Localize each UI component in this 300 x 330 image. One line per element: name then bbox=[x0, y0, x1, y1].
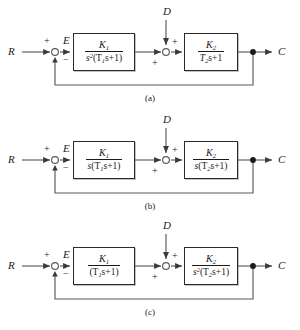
block2-numerator: K2 bbox=[202, 254, 220, 265]
block-diagram-b: R E D C + − + + K1 s(T1s+1) K2 s(T2s+1) … bbox=[0, 108, 300, 218]
sign-sum2-plus-top: + bbox=[172, 37, 178, 47]
label-input-r: R bbox=[8, 260, 15, 271]
transfer-function-block-1: K1 s(T1s+1) bbox=[73, 141, 135, 179]
block-diagram-a: R E D C + − + + K1 s2(T1s+1) K2 T2s+1 (a… bbox=[0, 0, 300, 110]
fraction-bar bbox=[86, 159, 121, 160]
sign-sum1-plus: + bbox=[44, 36, 50, 46]
block1-denominator: s2(T1s+1) bbox=[82, 53, 126, 64]
label-disturbance-d: D bbox=[163, 220, 171, 231]
feedback-arrowhead bbox=[52, 165, 58, 170]
summing-junction-1 bbox=[52, 263, 59, 270]
summing-junction-2 bbox=[163, 263, 170, 270]
caption-a: (a) bbox=[0, 93, 300, 103]
label-disturbance-d: D bbox=[163, 114, 171, 125]
sign-sum1-minus: − bbox=[63, 163, 69, 173]
block2-denominator: s2(T2s+1) bbox=[189, 267, 233, 278]
sign-sum1-plus: + bbox=[44, 144, 50, 154]
transfer-function-block-2: K2 s(T2s+1) bbox=[184, 141, 238, 179]
block2-numerator: K2 bbox=[202, 40, 220, 51]
label-output-c: C bbox=[278, 46, 285, 57]
takeoff-point bbox=[250, 49, 256, 55]
summing-junction-1 bbox=[52, 49, 59, 56]
label-output-c: C bbox=[278, 260, 285, 271]
sign-sum2-plus-bottom: + bbox=[152, 58, 158, 68]
sign-sum1-minus: − bbox=[63, 269, 69, 279]
label-error-e: E bbox=[63, 35, 70, 46]
fraction-bar bbox=[198, 51, 224, 52]
sign-sum2-plus-bottom: + bbox=[152, 272, 158, 282]
caption-c: (c) bbox=[0, 307, 300, 317]
transfer-function-block-2: K2 s2(T2s+1) bbox=[184, 247, 238, 285]
summing-junction-1 bbox=[52, 157, 59, 164]
fraction-bar bbox=[88, 265, 120, 266]
feedback-arrowhead bbox=[52, 57, 58, 62]
sign-sum1-plus: + bbox=[44, 250, 50, 260]
figure-canvas: R E D C + − + + K1 s2(T1s+1) K2 T2s+1 (a… bbox=[0, 0, 300, 330]
sign-sum2-plus-top: + bbox=[172, 145, 178, 155]
block1-numerator: K1 bbox=[95, 254, 113, 265]
block-diagram-c: R E D C + − + + K1 (T1s+1) K2 s2(T2s+1) … bbox=[0, 214, 300, 324]
label-input-r: R bbox=[8, 46, 15, 57]
transfer-function-block-2: K2 T2s+1 bbox=[184, 33, 238, 71]
block1-denominator: s(T1s+1) bbox=[84, 161, 125, 172]
block2-denominator: s(T2s+1) bbox=[191, 161, 232, 172]
label-error-e: E bbox=[63, 143, 70, 154]
block1-numerator: K1 bbox=[95, 40, 113, 51]
sign-sum2-plus-top: + bbox=[172, 251, 178, 261]
label-error-e: E bbox=[63, 249, 70, 260]
block1-denominator: (T1s+1) bbox=[85, 267, 122, 278]
summing-junction-2 bbox=[163, 157, 170, 164]
summing-junction-2 bbox=[163, 49, 170, 56]
takeoff-point bbox=[250, 263, 256, 269]
label-output-c: C bbox=[278, 154, 285, 165]
label-disturbance-d: D bbox=[163, 6, 171, 17]
block2-numerator: K2 bbox=[202, 148, 220, 159]
feedback-arrowhead bbox=[52, 271, 58, 276]
takeoff-point bbox=[250, 157, 256, 163]
sign-sum1-minus: − bbox=[63, 55, 69, 65]
transfer-function-block-1: K1 (T1s+1) bbox=[73, 247, 135, 285]
fraction-bar bbox=[193, 159, 228, 160]
block1-numerator: K1 bbox=[95, 148, 113, 159]
block2-denominator: T2s+1 bbox=[196, 53, 226, 64]
label-input-r: R bbox=[8, 154, 15, 165]
caption-b: (b) bbox=[0, 201, 300, 211]
transfer-function-block-1: K1 s2(T1s+1) bbox=[73, 33, 135, 71]
sign-sum2-plus-bottom: + bbox=[152, 166, 158, 176]
